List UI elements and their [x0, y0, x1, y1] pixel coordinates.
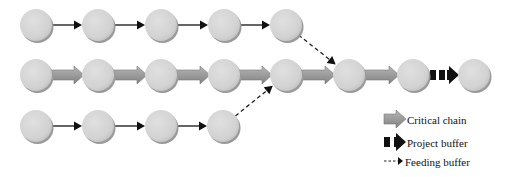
legend-label-feeding-buffer: Feeding buffer	[405, 156, 470, 168]
legend-feeding-buffer-icon	[384, 157, 403, 165]
diagram-canvas	[0, 0, 507, 177]
edge-critical-chain-m3-m4	[175, 66, 210, 84]
task-node-m1	[20, 59, 54, 93]
edge-task-t2-t3	[114, 21, 145, 30]
edge-task-t1-t2	[52, 21, 82, 30]
edge-task-t3-t4	[177, 21, 208, 30]
legend-label-critical-chain: Critical chain	[407, 114, 467, 126]
task-node-m3	[145, 59, 179, 93]
task-node-m2	[82, 59, 116, 93]
legend-critical-chain-icon	[384, 110, 406, 128]
legend	[384, 110, 406, 165]
edge-critical-chain-m2-m3	[112, 66, 147, 84]
task-node-t4	[208, 9, 242, 43]
edge-critical-chain-m5-m6	[300, 66, 335, 84]
task-node-m7	[397, 59, 431, 93]
task-node-m8	[458, 59, 492, 93]
edge-critical-chain-m6-m7	[363, 66, 399, 84]
edge-project-buffer-m7-m8	[430, 66, 459, 84]
task-node-t5	[270, 9, 304, 43]
task-node-m4	[208, 59, 242, 93]
edge-task-b3-b4	[177, 122, 207, 131]
task-node-t1	[20, 9, 54, 43]
edge-feeding-buffer-t5-m6	[299, 35, 336, 64]
task-node-m6	[333, 59, 367, 93]
legend-label-project-buffer: Project buffer	[407, 137, 468, 149]
task-node-b3	[145, 110, 179, 144]
task-node-b1	[20, 110, 54, 144]
task-node-t3	[145, 9, 179, 43]
edge-critical-chain-m1-m2	[50, 66, 84, 84]
edge-task-b2-b3	[114, 122, 145, 131]
edge-task-t4-t5	[240, 21, 270, 30]
task-node-b2	[82, 110, 116, 144]
legend-project-buffer-icon	[384, 133, 406, 151]
task-node-m5	[270, 59, 304, 93]
task-node-t2	[82, 9, 116, 43]
critical-chain-diagram: Critical chain Project buffer Feeding bu…	[0, 0, 507, 177]
edge-task-b1-b2	[52, 122, 82, 131]
edge-feeding-buffer-b4-m5	[235, 86, 272, 116]
edge-critical-chain-m4-m5	[238, 66, 272, 84]
